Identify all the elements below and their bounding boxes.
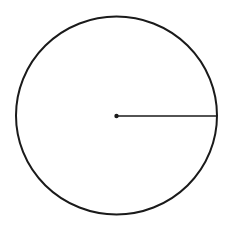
center-point bbox=[114, 114, 118, 118]
circle-diagram bbox=[0, 0, 231, 227]
